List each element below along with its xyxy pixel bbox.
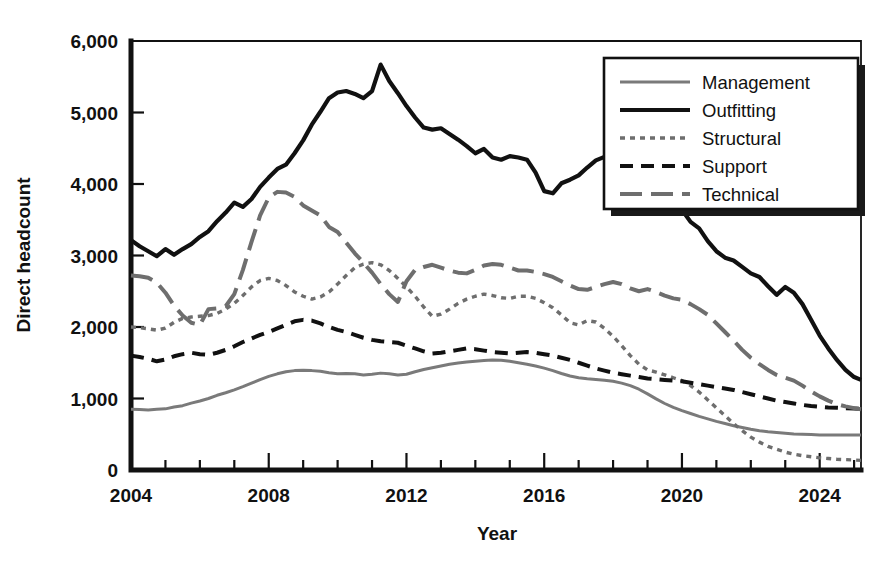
legend-label-technical: Technical (702, 184, 779, 205)
series-line-management (131, 360, 861, 435)
legend-label-management: Management (702, 72, 810, 93)
x-axis-title: Year (477, 523, 518, 544)
y-axis-tick-labels: 01,0002,0003,0004,0005,0006,000 (70, 31, 118, 481)
series-line-support (131, 320, 861, 409)
x-tick-label: 2008 (248, 485, 290, 506)
y-tick-label: 0 (107, 460, 118, 481)
x-axis-tick-labels: 200420082012201620202024 (110, 485, 841, 506)
chart-figure: 01,0002,0003,0004,0005,0006,000 20042008… (0, 0, 884, 568)
chart-legend: ManagementOutfittingStructuralSupportTec… (604, 58, 865, 216)
legend-label-support: Support (702, 156, 767, 177)
legend-label-outfitting: Outfitting (702, 100, 776, 121)
y-tick-label: 4,000 (70, 174, 118, 195)
x-tick-label: 2020 (661, 485, 703, 506)
y-tick-label: 5,000 (70, 103, 118, 124)
line-chart: 01,0002,0003,0004,0005,0006,000 20042008… (0, 0, 884, 568)
x-tick-label: 2004 (110, 485, 153, 506)
y-axis-title: Direct headcount (13, 177, 34, 333)
y-tick-label: 2,000 (70, 317, 118, 338)
x-tick-label: 2012 (385, 485, 427, 506)
legend-label-structural: Structural (702, 128, 781, 149)
y-tick-label: 6,000 (70, 31, 118, 52)
y-tick-label: 1,000 (70, 389, 118, 410)
y-tick-label: 3,000 (70, 246, 118, 267)
series-line-technical (131, 192, 861, 409)
x-tick-label: 2016 (523, 485, 565, 506)
x-tick-label: 2024 (799, 485, 842, 506)
x-axis-ticks (165, 453, 854, 470)
